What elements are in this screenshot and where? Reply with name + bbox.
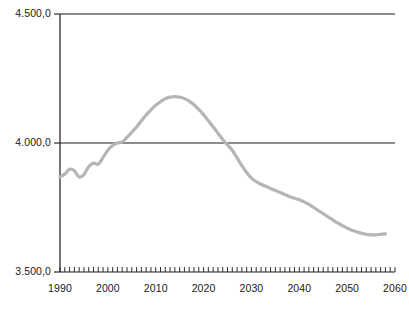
x-tick-label: 2000: [88, 283, 128, 294]
x-tick-label: 2010: [136, 283, 176, 294]
x-tick-label: 2050: [327, 283, 367, 294]
chart-container: 4.500,04.000,03.500,0 199020002010202020…: [0, 0, 409, 310]
major-tick-group: [54, 14, 60, 272]
minor-tick-group: [60, 267, 395, 272]
data-series-line: [60, 97, 385, 235]
y-tick-label: 4.000,0: [15, 137, 51, 148]
y-tick-label: 3.500,0: [15, 266, 51, 277]
line-chart-plot: [0, 0, 409, 310]
gridline-group: [60, 14, 395, 143]
x-tick-label: 2030: [231, 283, 271, 294]
x-tick-label: 2020: [184, 283, 224, 294]
x-tick-label: 1990: [40, 283, 80, 294]
x-tick-label: 2040: [279, 283, 319, 294]
y-tick-label: 4.500,0: [15, 8, 51, 19]
x-tick-label: 2060: [375, 283, 409, 294]
